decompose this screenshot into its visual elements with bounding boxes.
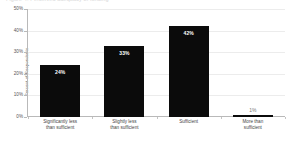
bar-value-label-3: 1% xyxy=(249,108,256,113)
y-tick-mark-50 xyxy=(24,9,27,10)
bar-value-label-1: 33% xyxy=(119,51,129,56)
y-tick-label-40: 40% xyxy=(14,28,23,33)
plot-area: 50% 40% 30% 20% 10% 0% 24% 33% 42% xyxy=(27,9,285,117)
bar-value-label-2: 42% xyxy=(184,31,194,36)
y-tick-label-20: 20% xyxy=(14,72,23,77)
bar-value-label-0: 24% xyxy=(55,70,65,75)
bar-significantly-less-than-sufficient[interactable]: 24% xyxy=(40,65,80,117)
y-tick-label-10: 10% xyxy=(14,93,23,98)
bar-sufficient[interactable]: 42% xyxy=(169,26,209,117)
x-tick-label-more-than-sufficient: More than sufficient xyxy=(221,119,285,131)
bars-layer: 24% 33% 42% 1% xyxy=(28,9,285,117)
figure-caption: Figure 4. Perceived adequacy of funding xyxy=(6,0,109,2)
y-tick-mark-10 xyxy=(24,95,27,96)
bar-chart-figure: Figure 4. Perceived adequacy of funding … xyxy=(0,0,290,143)
y-tick-mark-0 xyxy=(24,117,27,118)
bar-slightly-less-than-sufficient[interactable]: 33% xyxy=(104,46,144,117)
y-tick-mark-30 xyxy=(24,52,27,53)
y-tick-mark-20 xyxy=(24,74,27,75)
x-tick-label-significantly-less-than-sufficient: Significantly less than sufficient xyxy=(28,119,92,131)
bar-slot-2: 42% xyxy=(157,9,221,117)
bar-more-than-sufficient[interactable]: 1% xyxy=(233,115,273,118)
x-axis-labels: Significantly less than sufficient Sligh… xyxy=(28,119,285,141)
y-tick-label-30: 30% xyxy=(14,50,23,55)
bar-slot-1: 33% xyxy=(92,9,156,117)
x-tick-label-slightly-less-than-sufficient: Slightly less than sufficient xyxy=(92,119,156,131)
y-tick-label-50: 50% xyxy=(14,7,23,12)
x-tick-label-sufficient: Sufficient xyxy=(157,119,221,125)
bar-slot-3: 1% xyxy=(221,9,285,117)
y-tick-mark-40 xyxy=(24,31,27,32)
y-tick-label-0: 0% xyxy=(16,115,23,120)
figure-caption-strip: Figure 4. Perceived adequacy of funding xyxy=(0,0,290,5)
bar-slot-0: 24% xyxy=(28,9,92,117)
